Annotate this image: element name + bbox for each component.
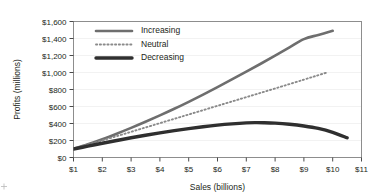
x-axis-tick-label: $10: [326, 165, 340, 174]
y-axis-tick-label: $1,000: [42, 69, 67, 78]
x-axis-tick-label: $9: [299, 165, 308, 174]
x-axis-tick-label: $1: [69, 165, 78, 174]
x-axis-tick-label: $2: [98, 165, 107, 174]
x-axis-tick-label: $3: [127, 165, 136, 174]
legend-label-increasing: Increasing: [141, 25, 180, 35]
y-axis-title: Profits (millions): [12, 59, 22, 120]
x-axis-tick-label: $11: [355, 165, 368, 174]
y-axis-tick-label: $1,400: [42, 35, 67, 44]
x-axis-tick-label: $6: [213, 165, 222, 174]
legend-label-decreasing: Decreasing: [141, 52, 184, 62]
chart-container: $0$200$400$600$800$1,000$1,200$1,400$1,6…: [0, 0, 380, 196]
x-axis-title: Sales (billions): [190, 182, 245, 192]
x-axis-tick-label: $8: [271, 165, 280, 174]
y-axis-tick-label: $600: [49, 103, 67, 112]
line-chart: $0$200$400$600$800$1,000$1,200$1,400$1,6…: [0, 0, 380, 196]
y-axis-tick-label: $800: [49, 86, 67, 95]
y-axis-tick-label: $1,200: [42, 52, 67, 61]
y-axis-tick-label: $0: [58, 154, 67, 163]
y-axis-tick-label: $1,600: [42, 18, 67, 27]
x-axis-tick-label: $7: [242, 165, 251, 174]
y-axis-tick-label: $200: [49, 137, 67, 146]
x-axis-tick-label: $5: [184, 165, 193, 174]
legend-label-neutral: Neutral: [141, 39, 169, 49]
x-axis-tick-label: $4: [155, 165, 164, 174]
y-axis-tick-label: $400: [49, 120, 67, 129]
